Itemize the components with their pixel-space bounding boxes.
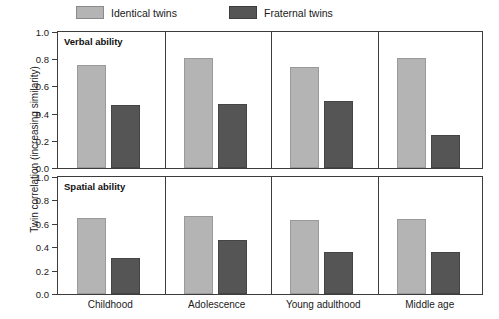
y-axis-tick-label: 0.0 [36,289,49,300]
y-axis-tick-label: 0.6 [36,218,49,229]
y-axis-tick-label: 0.4 [36,242,49,253]
bar-group [57,31,164,168]
legend-label-fraternal: Fraternal twins [264,7,333,19]
y-axis-tick-label: 0.2 [36,265,49,276]
bar-identical-twins [290,67,319,168]
bar-fraternal-twins [431,252,460,294]
bar-identical-twins [77,218,106,294]
x-axis-label: Childhood [88,299,133,310]
bar-groups-spatial [57,176,483,295]
bar-fraternal-twins [111,258,140,294]
y-axis-tick-label: 0.2 [36,135,49,146]
y-axis-tick-label: 0.6 [36,81,49,92]
bar-group [164,31,271,168]
bar-group [57,176,164,294]
bar-group [377,31,484,168]
panel-spatial-ability: Spatial ability 1.00.80.60.40.20.0 [57,176,483,295]
legend-item-fraternal-twins: Fraternal twins [229,6,333,19]
legend-swatch-identical-icon [76,6,104,19]
bar-fraternal-twins [324,101,353,168]
bar-fraternal-twins [218,240,247,294]
panel-verbal-ability: Verbal ability 1.00.80.60.40.20.0 [57,31,483,169]
panel-title-verbal: Verbal ability [64,36,123,47]
bar-identical-twins [397,58,426,168]
panel-title-spatial: Spatial ability [64,181,125,192]
y-axis-tick-label: 0.8 [36,54,49,65]
y-axis-tick-label: 0.4 [36,108,49,119]
bar-fraternal-twins [431,135,460,168]
y-axis-tick-label: 1.0 [36,172,49,183]
x-axis-label: Middle age [405,299,454,310]
bar-identical-twins [290,220,319,294]
twin-correlation-chart: Identical twins Fraternal twins Twin cor… [0,0,499,319]
bar-identical-twins [184,216,213,294]
y-axis-tick-label: 0.8 [36,195,49,206]
bar-identical-twins [77,65,106,168]
y-axis-title: Twin correlation (increasing similarity) [29,30,40,270]
bar-groups-verbal [57,31,483,169]
bar-fraternal-twins [111,105,140,168]
y-axis-tick-label: 1.0 [36,27,49,38]
x-axis-label: Young adulthood [286,299,361,310]
legend-label-identical: Identical twins [111,7,177,19]
bar-fraternal-twins [218,104,247,168]
bar-fraternal-twins [324,252,353,294]
bar-identical-twins [184,58,213,168]
bar-identical-twins [397,219,426,294]
chart-legend: Identical twins Fraternal twins [0,6,499,26]
x-axis-labels: ChildhoodAdolescenceYoung adulthoodMiddl… [57,299,483,315]
legend-item-identical-twins: Identical twins [76,6,177,19]
bar-group [164,176,271,294]
x-axis-label: Adolescence [188,299,245,310]
bar-group [270,31,377,168]
legend-swatch-fraternal-icon [229,6,257,19]
bar-group [270,176,377,294]
bar-group [377,176,484,294]
